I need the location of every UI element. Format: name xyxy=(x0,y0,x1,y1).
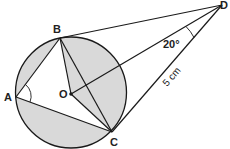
angle-label-20: 20° xyxy=(163,38,180,50)
label-a: A xyxy=(4,91,12,103)
angle-arc-a xyxy=(26,85,32,103)
label-o: O xyxy=(59,88,68,100)
center-point-o xyxy=(69,92,73,96)
label-b: B xyxy=(53,23,61,35)
angle-arc-d xyxy=(186,27,194,38)
geometry-figure: B A O C D 20° 5 cm xyxy=(0,0,230,149)
length-label-dc: 5 cm xyxy=(160,65,183,89)
label-d: D xyxy=(220,0,228,11)
label-c: C xyxy=(110,136,118,148)
